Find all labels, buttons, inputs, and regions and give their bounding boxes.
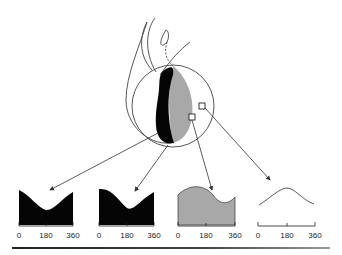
profile-3-tick-180: 180 [199,232,212,240]
profile-2-tick-180: 180 [120,232,133,240]
profile-4-axis [258,222,315,226]
profile-1-tick-180: 180 [39,232,52,240]
profile-4-tick-360: 360 [308,232,321,240]
bottom-rule [12,247,330,249]
profile-1-area [19,190,73,225]
profile-3-tick-360: 360 [228,232,241,240]
profile-chart-3 [178,187,235,226]
profile-chart-4 [258,188,315,226]
diagram-canvas [0,0,342,255]
grey-region [169,66,192,143]
clear-region-sample-box [199,103,205,109]
arrow-to-profile-3 [192,120,212,190]
profile-3-tick-0: 0 [176,232,180,240]
profile-4-tick-180: 180 [280,232,293,240]
grey-region-sample-box [189,114,195,120]
arrow-to-profile-2 [135,145,168,191]
profile-4-line [259,188,314,205]
profile-3-area [178,187,235,225]
profile-2-area [99,189,154,225]
profile-chart-2 [99,189,154,226]
profile-chart-1 [19,190,73,226]
profile-2-tick-360: 360 [147,232,160,240]
profile-1-tick-0: 0 [17,232,21,240]
profile-4-tick-0: 0 [256,232,260,240]
arrow-to-profile-4 [205,108,270,180]
profile-1-tick-360: 360 [66,232,79,240]
profile-2-tick-0: 0 [97,232,101,240]
